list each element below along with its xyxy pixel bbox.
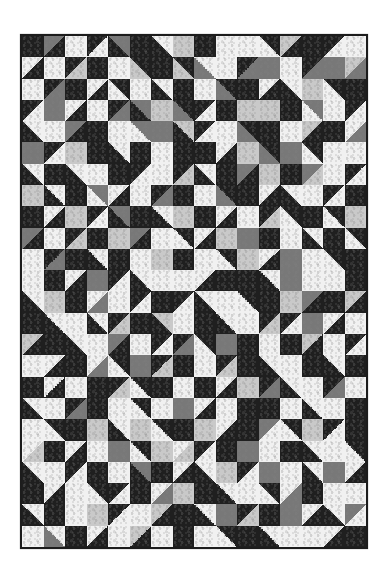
solid-square-patch — [216, 164, 238, 185]
solid-square-patch — [345, 483, 367, 504]
solid-square-patch — [130, 185, 152, 206]
half-square-triangle-patch — [173, 462, 195, 483]
solid-square-patch — [237, 377, 259, 398]
solid-square-patch — [151, 398, 173, 419]
solid-square-patch — [345, 419, 367, 440]
half-square-triangle-patch — [323, 313, 345, 334]
solid-square-patch — [87, 441, 109, 462]
half-square-triangle-patch — [151, 483, 173, 504]
half-square-triangle-patch — [87, 291, 109, 312]
half-square-triangle-patch — [108, 79, 130, 100]
half-square-triangle-patch — [108, 100, 130, 121]
solid-square-patch — [44, 398, 66, 419]
half-square-triangle-patch — [259, 36, 281, 57]
solid-square-patch — [194, 419, 216, 440]
half-square-triangle-patch — [216, 185, 238, 206]
half-square-triangle-patch — [216, 142, 238, 163]
half-square-triangle-patch — [216, 355, 238, 376]
half-square-triangle-patch — [65, 100, 87, 121]
solid-square-patch — [65, 313, 87, 334]
half-square-triangle-patch — [194, 270, 216, 291]
solid-square-patch — [237, 228, 259, 249]
half-square-triangle-patch — [173, 57, 195, 78]
solid-square-patch — [280, 441, 302, 462]
solid-square-patch — [216, 36, 238, 57]
half-square-triangle-patch — [323, 419, 345, 440]
solid-square-patch — [237, 334, 259, 355]
solid-square-patch — [65, 377, 87, 398]
solid-square-patch — [130, 313, 152, 334]
solid-square-patch — [259, 100, 281, 121]
half-square-triangle-patch — [216, 206, 238, 227]
half-square-triangle-patch — [151, 419, 173, 440]
half-square-triangle-patch — [323, 355, 345, 376]
solid-square-patch — [87, 419, 109, 440]
solid-square-patch — [345, 185, 367, 206]
half-square-triangle-patch — [87, 249, 109, 270]
solid-square-patch — [151, 142, 173, 163]
half-square-triangle-patch — [280, 36, 302, 57]
solid-square-patch — [87, 228, 109, 249]
solid-square-patch — [130, 249, 152, 270]
quilt-block-grid — [22, 36, 366, 547]
solid-square-patch — [302, 377, 324, 398]
solid-square-patch — [65, 504, 87, 525]
half-square-triangle-patch — [259, 270, 281, 291]
solid-square-patch — [280, 270, 302, 291]
solid-square-patch — [323, 462, 345, 483]
half-square-triangle-patch — [44, 483, 66, 504]
half-square-triangle-patch — [323, 249, 345, 270]
solid-square-patch — [151, 164, 173, 185]
half-square-triangle-patch — [259, 526, 281, 547]
solid-square-patch — [302, 270, 324, 291]
solid-square-patch — [65, 142, 87, 163]
solid-square-patch — [173, 185, 195, 206]
half-square-triangle-patch — [130, 441, 152, 462]
solid-square-patch — [22, 313, 44, 334]
solid-square-patch — [194, 249, 216, 270]
half-square-triangle-patch — [44, 185, 66, 206]
solid-square-patch — [259, 228, 281, 249]
half-square-triangle-patch — [302, 462, 324, 483]
solid-square-patch — [44, 228, 66, 249]
solid-square-patch — [87, 462, 109, 483]
half-square-triangle-patch — [194, 441, 216, 462]
solid-square-patch — [323, 164, 345, 185]
solid-square-patch — [194, 79, 216, 100]
half-square-triangle-patch — [65, 398, 87, 419]
solid-square-patch — [280, 249, 302, 270]
half-square-triangle-patch — [345, 228, 367, 249]
solid-square-patch — [280, 398, 302, 419]
solid-square-patch — [22, 185, 44, 206]
half-square-triangle-patch — [130, 462, 152, 483]
half-square-triangle-patch — [323, 504, 345, 525]
solid-square-patch — [237, 185, 259, 206]
half-square-triangle-patch — [280, 206, 302, 227]
half-square-triangle-patch — [44, 526, 66, 547]
solid-square-patch — [151, 377, 173, 398]
solid-square-patch — [173, 249, 195, 270]
half-square-triangle-patch — [280, 483, 302, 504]
solid-square-patch — [323, 398, 345, 419]
solid-square-patch — [173, 36, 195, 57]
solid-square-patch — [323, 121, 345, 142]
half-square-triangle-patch — [22, 164, 44, 185]
solid-square-patch — [87, 100, 109, 121]
half-square-triangle-patch — [280, 377, 302, 398]
solid-square-patch — [22, 142, 44, 163]
half-square-triangle-patch — [323, 185, 345, 206]
solid-square-patch — [194, 526, 216, 547]
half-square-triangle-patch — [130, 270, 152, 291]
solid-square-patch — [280, 355, 302, 376]
solid-square-patch — [22, 355, 44, 376]
solid-square-patch — [216, 504, 238, 525]
solid-square-patch — [259, 57, 281, 78]
solid-square-patch — [216, 398, 238, 419]
half-square-triangle-patch — [22, 334, 44, 355]
solid-square-patch — [323, 334, 345, 355]
half-square-triangle-patch — [44, 249, 66, 270]
half-square-triangle-patch — [345, 441, 367, 462]
solid-square-patch — [259, 334, 281, 355]
half-square-triangle-patch — [87, 526, 109, 547]
half-square-triangle-patch — [237, 57, 259, 78]
